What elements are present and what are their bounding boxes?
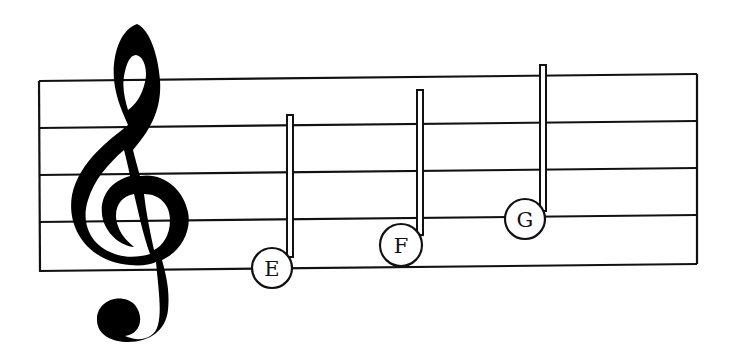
note-g-label: G [517, 208, 534, 232]
note-e-label: E [264, 257, 279, 281]
note-f-stem [417, 90, 423, 235]
note-e[interactable]: E [252, 115, 293, 288]
note-g[interactable]: G [505, 65, 546, 239]
staff-line-2 [39, 215, 697, 222]
note-g-stem [540, 65, 546, 211]
treble-clef-icon [71, 24, 189, 342]
staff-left-bar [39, 81, 40, 271]
note-f-label: F [394, 234, 409, 258]
music-staff-diagram: E F G [0, 0, 735, 359]
staff-line-5 [39, 74, 697, 81]
note-f[interactable]: F [380, 90, 423, 266]
note-e-stem [287, 115, 293, 257]
